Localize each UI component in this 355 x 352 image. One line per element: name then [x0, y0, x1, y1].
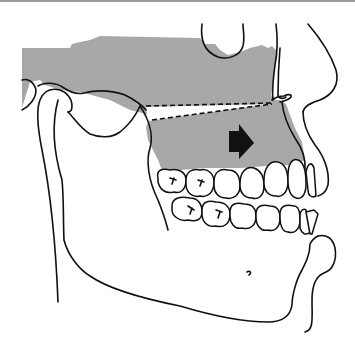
ramus-posterior-border	[54, 100, 64, 240]
mandible-lower-border	[64, 236, 318, 322]
jaw-surgery-diagram	[0, 0, 355, 352]
nasal-wall-inner	[278, 48, 286, 98]
nose-profile	[303, 24, 337, 112]
lower-teeth	[172, 197, 318, 234]
mental-foramen	[247, 271, 250, 275]
sigmoid-notch	[68, 106, 140, 137]
